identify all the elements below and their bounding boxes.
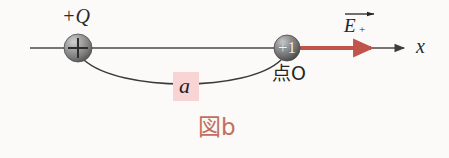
source-charge-label: +Q (62, 6, 90, 26)
test-charge-sphere (274, 35, 300, 61)
physics-figure-canvas: +Q +1 点O E + a x 図b (0, 0, 449, 158)
distance-label-highlight: a (173, 72, 199, 101)
figure-caption: 図b (198, 116, 236, 139)
field-vector-label: E + (341, 9, 381, 37)
field-symbol-text: E (344, 16, 356, 35)
x-axis-label: x (416, 36, 425, 56)
distance-symbol-text: a (179, 75, 190, 97)
point-o-label: 点O (272, 64, 306, 83)
field-subscript-text: + (359, 24, 365, 35)
